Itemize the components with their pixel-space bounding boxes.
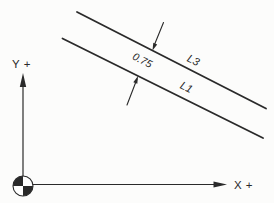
dimension: 0.75 <box>127 23 164 106</box>
line-l3-label: L3 <box>185 52 202 69</box>
origin-symbol <box>13 176 33 196</box>
origin-quadrant-top-left <box>13 176 23 186</box>
y-axis-arrowhead <box>20 73 26 87</box>
axes: Y + X + <box>12 58 253 191</box>
dimension-arrowhead-upper <box>153 43 158 51</box>
dimension-arrowhead-lower <box>133 76 138 84</box>
dimension-value: 0.75 <box>131 50 155 70</box>
parallel-lines: L3 L1 <box>63 12 267 138</box>
y-axis-label: Y + <box>12 58 31 70</box>
dimension-leader-upper <box>154 23 164 48</box>
x-axis-arrowhead <box>214 181 228 187</box>
line-l1 <box>63 39 264 139</box>
technical-diagram: L3 L1 0.75 Y + X + <box>0 0 274 203</box>
diagram-canvas: L3 L1 0.75 Y + X + <box>0 0 274 203</box>
line-l1-label: L1 <box>178 79 194 95</box>
origin-quadrant-bottom-right <box>23 186 33 196</box>
x-axis-label: X + <box>234 179 253 191</box>
